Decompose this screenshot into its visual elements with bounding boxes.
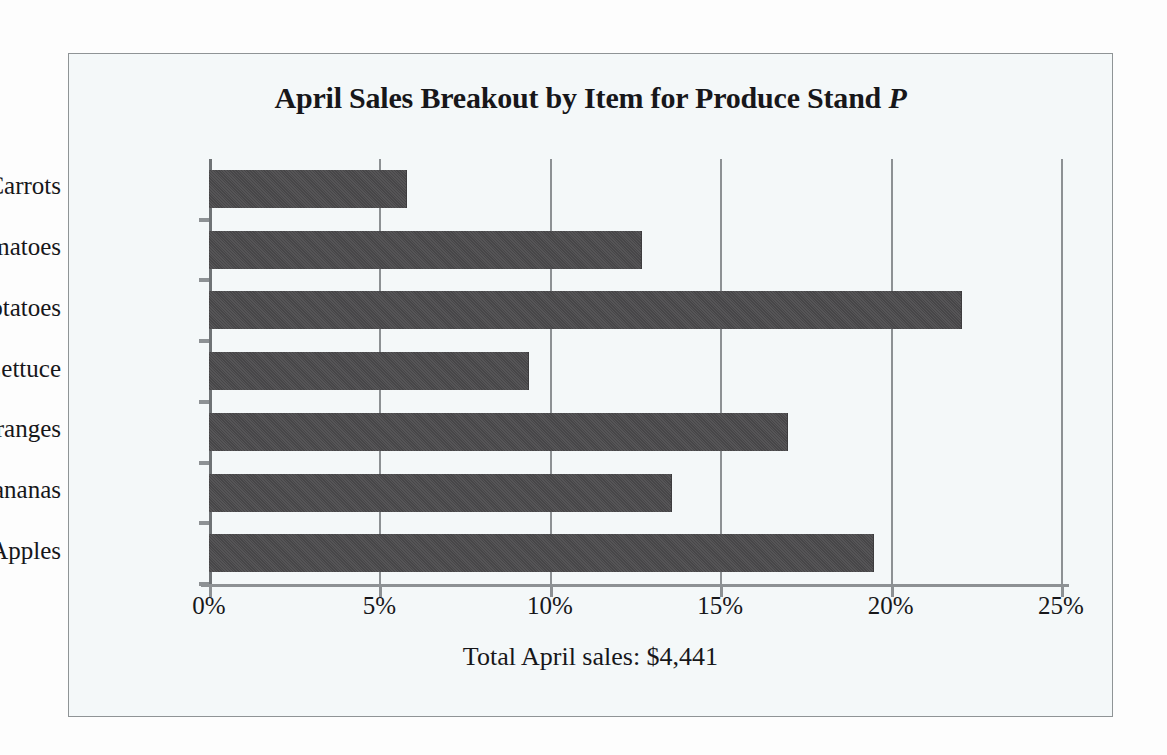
bar-lettuce: [209, 352, 529, 390]
x-axis-tick-labels: 0%5%10%15%20%25%: [209, 592, 1061, 632]
chart-title-italic-symbol: P: [888, 81, 906, 114]
y-tick: [199, 461, 209, 465]
category-label-bananas: Bananas: [0, 476, 61, 504]
category-label-lettuce: Lettuce: [0, 355, 61, 383]
bar-carrots: [209, 170, 407, 208]
x-axis-label-5: 5%: [363, 592, 396, 620]
bar-row: [209, 341, 1061, 402]
category-label-potatoes: Potatoes: [0, 294, 61, 322]
bar-row: [209, 402, 1061, 463]
x-axis-label-15: 15%: [697, 592, 743, 620]
category-label-carrots: Carrots: [0, 172, 61, 200]
bar-bananas: [209, 474, 672, 512]
scanned-page: April Sales Breakout by Item for Produce…: [0, 0, 1167, 755]
plot-area: [209, 159, 1061, 584]
x-axis-line: [201, 584, 1069, 587]
x-axis-label-10: 10%: [527, 592, 573, 620]
x-axis-label-20: 20%: [868, 592, 914, 620]
category-label-oranges: Oranges: [0, 415, 61, 443]
bar-apples: [209, 534, 874, 572]
category-label-tomatoes: Tomatoes: [0, 233, 61, 261]
y-axis-category-labels: CarrotsTomatoesPotatoesLettuceOrangesBan…: [0, 159, 61, 584]
bar-oranges: [209, 413, 788, 451]
chart-title: April Sales Breakout by Item for Produce…: [69, 81, 1112, 115]
bar-tomatoes: [209, 231, 642, 269]
chart-title-main: April Sales Breakout by Item for Produce…: [274, 81, 888, 114]
chart-figure-frame: April Sales Breakout by Item for Produce…: [68, 53, 1113, 717]
y-tick: [199, 339, 209, 343]
x-axis-label-25: 25%: [1038, 592, 1084, 620]
y-tick: [199, 218, 209, 222]
gridline-25: [1061, 159, 1063, 584]
y-tick: [199, 521, 209, 525]
chart-caption: Total April sales: $4,441: [69, 642, 1112, 672]
x-axis-label-0: 0%: [192, 592, 225, 620]
y-tick: [199, 582, 209, 586]
bar-potatoes: [209, 291, 962, 329]
bar-row: [209, 523, 1061, 584]
y-tick: [199, 400, 209, 404]
y-tick: [199, 278, 209, 282]
category-label-apples: Apples: [0, 537, 61, 565]
bar-row: [209, 280, 1061, 341]
bar-row: [209, 220, 1061, 281]
bar-row: [209, 159, 1061, 220]
bar-row: [209, 463, 1061, 524]
